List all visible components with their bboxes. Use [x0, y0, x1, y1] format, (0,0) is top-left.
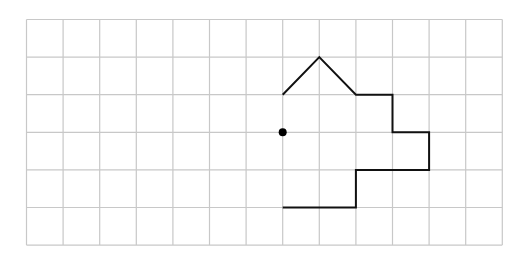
grid-diagram	[0, 0, 528, 259]
centre-point-dot	[279, 128, 287, 136]
grid-lines	[27, 20, 503, 246]
